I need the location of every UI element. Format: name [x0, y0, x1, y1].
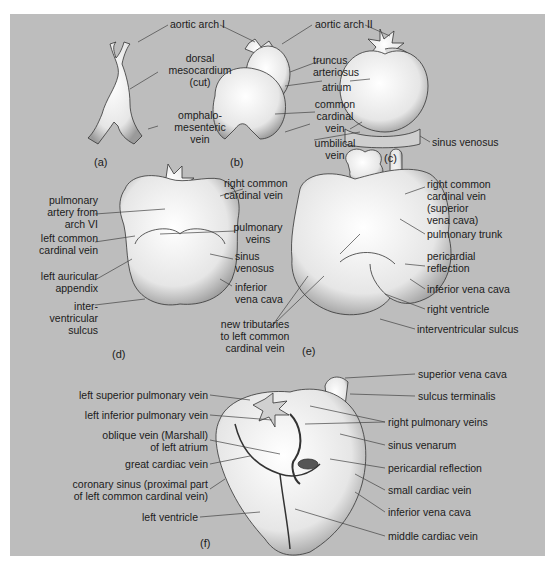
- label-left-inferior-pulmonary-vein: left inferior pulmonary vein: [50, 409, 208, 421]
- label-oblique-vein-marshall: oblique vein (Marshall) of left atrium: [50, 429, 208, 453]
- label-right-common-cardinal-vein-d: right common cardinal vein: [224, 177, 288, 201]
- label-new-tributaries: new tributaries to left common cardinal …: [215, 318, 295, 354]
- label-middle-cardiac-vein: middle cardiac vein: [388, 530, 478, 542]
- heart-drawing-a: [88, 42, 142, 144]
- label-atrium: atrium: [322, 81, 351, 93]
- label-left-auricular-appendix: left auricular appendix: [20, 270, 98, 294]
- caption-b: (b): [230, 156, 243, 168]
- label-right-ventricle: right ventricle: [427, 303, 489, 315]
- label-inferior-vena-cava-f: inferior vena cava: [388, 506, 471, 518]
- label-sinus-venosus-d: sinus venosus: [235, 250, 274, 274]
- label-aortic-arch-1: aortic arch I: [170, 18, 225, 30]
- label-interventricular-sulcus-d: inter- ventricular sulcus: [30, 300, 98, 336]
- label-superior-vena-cava-f: superior vena cava: [418, 368, 507, 380]
- caption-f: (f): [200, 537, 210, 549]
- label-dorsal-mesocardium: dorsal mesocardium (cut): [160, 52, 240, 88]
- label-truncus-arteriosus: truncus arteriosus: [313, 54, 359, 78]
- label-right-pulmonary-veins: right pulmonary veins: [388, 416, 488, 428]
- label-pulmonary-trunk: pulmonary trunk: [427, 228, 502, 240]
- label-coronary-sinus: coronary sinus (proximal part of left co…: [20, 478, 208, 502]
- label-small-cardiac-vein: small cardiac vein: [388, 484, 471, 496]
- label-sinus-venosus-c: sinus venosus: [432, 136, 499, 148]
- heart-drawing-f: [216, 377, 366, 555]
- caption-d: (d): [112, 348, 125, 360]
- caption-e: (e): [302, 345, 315, 357]
- label-aortic-arch-2: aortic arch II: [315, 18, 373, 30]
- label-pericardial-reflection-e: pericardial reflection: [427, 250, 475, 274]
- figure-panel: aortic arch I dorsal mesocardium (cut) o…: [10, 14, 545, 556]
- label-omphalomesenteric-vein: omphalo- mesenteric vein: [165, 109, 235, 145]
- label-left-common-cardinal-vein: left common cardinal vein: [20, 232, 98, 256]
- label-pulmonary-veins-d: pulmonary veins: [228, 221, 288, 245]
- heart-drawing-d: [120, 164, 239, 305]
- label-interventricular-sulcus-e: interventricular sulcus: [417, 323, 519, 335]
- label-right-common-cardinal-vein-e: right common cardinal vein (superior ven…: [427, 178, 491, 226]
- caption-c: (c): [384, 152, 397, 164]
- label-left-superior-pulmonary-vein: left superior pulmonary vein: [50, 389, 208, 401]
- label-umbilical-vein: umbilical vein: [310, 137, 360, 161]
- label-sulcus-terminalis: sulcus terminalis: [418, 390, 496, 402]
- label-pericardial-reflection-f: pericardial reflection: [388, 462, 482, 474]
- label-inferior-vena-cava-e: inferior vena cava: [427, 283, 510, 295]
- label-great-cardiac-vein: great cardiac vein: [50, 458, 208, 470]
- label-common-cardinal-vein: common cardinal vein: [310, 98, 360, 134]
- label-inferior-vena-cava-d: inferior vena cava: [235, 281, 283, 305]
- caption-a: (a): [94, 156, 107, 168]
- label-sinus-venarum: sinus venarum: [388, 439, 456, 451]
- label-left-ventricle: left ventricle: [50, 511, 198, 523]
- label-pulmonary-artery-arch-vi: pulmonary artery from arch VI: [30, 194, 98, 230]
